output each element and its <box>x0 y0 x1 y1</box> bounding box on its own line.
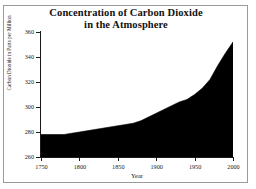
x-axis-tick-label: 2000 <box>227 163 239 170</box>
y-axis-tick-label: 320 <box>25 78 34 85</box>
y-axis-tick: 300 <box>36 107 41 108</box>
x-axis-tick: 2000 <box>233 157 234 161</box>
y-axis-tick-label: 260 <box>25 153 34 160</box>
x-axis-tick: 1900 <box>156 157 157 161</box>
x-axis-tick: 1850 <box>118 157 119 161</box>
chart-title-line-1: Concentration of Carbon Dioxide <box>12 7 240 19</box>
chart-title: Concentration of Carbon Dioxide in the A… <box>12 7 240 30</box>
y-axis-tick-label: 280 <box>25 128 34 135</box>
plot-area <box>41 32 233 157</box>
x-axis-tick-label: 1900 <box>151 163 163 170</box>
x-axis-label: Year <box>41 172 233 179</box>
y-axis-tick-label: 300 <box>25 103 34 110</box>
x-axis-line <box>40 157 234 158</box>
chart-title-line-2: in the Atmosphere <box>12 19 240 31</box>
x-axis-tick-label: 1850 <box>112 163 124 170</box>
y-axis-tick: 320 <box>36 82 41 83</box>
x-axis-tick-label: 1750 <box>35 163 47 170</box>
chart-figure: Concentration of Carbon Dioxide in the A… <box>0 0 256 189</box>
y-axis-tick-label: 340 <box>25 53 34 60</box>
y-axis-tick: 340 <box>36 57 41 58</box>
x-axis-tick: 1800 <box>79 157 80 161</box>
x-axis-tick: 1750 <box>41 157 42 161</box>
y-axis-label: Carbon Dioxide in Parts per Million <box>6 0 12 108</box>
x-axis-tick-label: 1800 <box>74 163 86 170</box>
y-axis-tick-label: 360 <box>25 28 34 35</box>
x-axis-tick: 1950 <box>195 157 196 161</box>
x-axis-tick-label: 1950 <box>189 163 201 170</box>
y-axis-tick: 360 <box>36 32 41 33</box>
co2-area-series <box>41 32 233 157</box>
y-axis-tick: 280 <box>36 132 41 133</box>
